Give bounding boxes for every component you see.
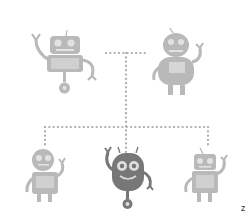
robot-top-left [32, 30, 96, 94]
corner-mark: z [241, 205, 245, 213]
robot-bottom-left [27, 149, 65, 202]
robot-bottom-right [186, 148, 227, 202]
robot-hierarchy-diagram [0, 0, 248, 223]
robot-bottom-center [105, 147, 153, 209]
robot-top-right [154, 28, 203, 95]
